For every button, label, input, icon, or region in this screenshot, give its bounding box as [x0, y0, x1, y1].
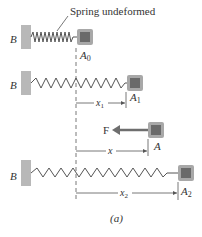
block-a-inner	[151, 125, 161, 135]
force-arrowhead-icon	[112, 125, 120, 135]
arrowhead-icon	[143, 149, 147, 153]
row-force: F A x	[76, 122, 164, 156]
row-1: B A1 x1	[10, 71, 143, 110]
row-0: B A0	[10, 25, 93, 63]
block-label-a: A	[153, 140, 161, 152]
block-label-a2: A2	[180, 185, 192, 199]
figure-caption: (a)	[110, 212, 123, 225]
spring-stretched-x1	[31, 78, 127, 88]
arrowhead-icon	[173, 191, 177, 195]
row-2: B A2 x2	[10, 160, 194, 200]
wall-label-b: B	[10, 33, 17, 45]
arrowhead-icon	[121, 101, 125, 105]
wall-label-b: B	[10, 170, 17, 182]
wall-b	[21, 71, 31, 95]
annotation-leader-line	[57, 16, 68, 31]
wall-b	[21, 160, 31, 186]
wall-b	[21, 25, 31, 49]
dimension-label-x: x	[107, 145, 113, 156]
block-a1-inner	[130, 78, 140, 88]
force-label-f: F	[103, 124, 109, 136]
spring-diagram: Spring undeformed B A0 B A1 x1 F	[0, 0, 202, 237]
block-label-a1: A1	[129, 91, 141, 105]
block-label-a0: A0	[79, 49, 91, 63]
block-a2-inner	[181, 168, 191, 178]
block-a0-inner	[80, 32, 90, 42]
spring-stretched-x2	[31, 168, 178, 177]
wall-label-b: B	[10, 79, 17, 91]
annotation-spring-undeformed: Spring undeformed	[70, 5, 156, 17]
spring-compressed	[31, 32, 77, 42]
